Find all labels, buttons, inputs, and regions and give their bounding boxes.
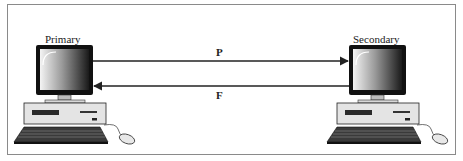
f-flow-label: F	[216, 89, 223, 101]
primary-computer-icon	[14, 45, 136, 146]
secondary-computer-icon	[327, 45, 449, 146]
diagram-graphics	[0, 0, 463, 161]
primary-label: Primary	[45, 33, 80, 45]
diagram-canvas: Primary Secondary P F	[0, 0, 463, 161]
p-flow-label: P	[216, 46, 223, 58]
secondary-label: Secondary	[353, 33, 399, 45]
